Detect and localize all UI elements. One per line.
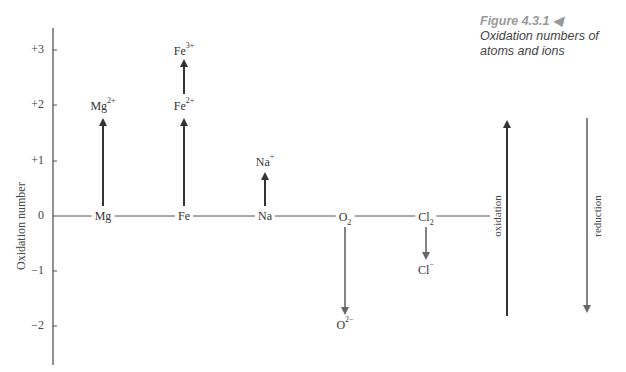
species-mg2plus: Mg2+: [87, 99, 118, 114]
tick-label-plus3: +3: [14, 42, 44, 57]
species-clminus: Cl−: [415, 263, 437, 278]
species-naplus: Na+: [253, 155, 278, 170]
species-cl2: Cl2: [415, 210, 436, 225]
y-axis-label: Oxidation number: [14, 182, 29, 270]
species-fe2plus: Fe2+: [171, 99, 198, 114]
reduction-label: reduction: [591, 195, 603, 237]
species-fe3plus: Fe3+: [171, 44, 198, 59]
species-fe: Fe: [175, 209, 193, 224]
species-mg: Mg: [92, 209, 115, 224]
tick-label-plus1: +1: [14, 153, 44, 168]
tick-label-plus2: +2: [14, 97, 44, 112]
species-na: Na: [255, 209, 275, 224]
tick-label-minus2: −2: [14, 318, 44, 333]
species-o2: O2: [336, 210, 355, 225]
diagram-lines: [0, 0, 626, 372]
species-o2minus: O2−: [333, 318, 356, 333]
oxidation-label: oxidation: [491, 195, 503, 237]
